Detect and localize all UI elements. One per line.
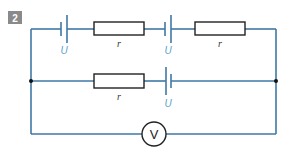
junction-left xyxy=(29,79,33,83)
figure-number-badge: 2 xyxy=(8,11,22,24)
figure-number: 2 xyxy=(12,13,18,24)
circuit-diagram: 2 U r U r xyxy=(0,0,281,150)
resistor-label: r xyxy=(117,38,121,49)
resistor-top-1: r xyxy=(94,22,144,49)
junction-right xyxy=(274,79,278,83)
resistor-label: r xyxy=(218,38,222,49)
battery-label: U xyxy=(60,45,68,56)
battery-middle: U xyxy=(164,67,172,109)
resistor-label: r xyxy=(117,91,121,102)
battery-label: U xyxy=(164,98,172,109)
resistor-body xyxy=(195,22,245,35)
battery-label: U xyxy=(164,45,172,56)
voltmeter: V xyxy=(142,122,166,146)
wires xyxy=(31,29,276,134)
resistor-body xyxy=(94,74,144,88)
voltmeter-symbol: V xyxy=(150,127,159,142)
battery-top-1: U xyxy=(60,15,68,56)
battery-top-2: U xyxy=(164,15,172,56)
resistor-top-2: r xyxy=(195,22,245,49)
resistor-body xyxy=(94,22,144,35)
resistor-middle: r xyxy=(94,74,144,102)
